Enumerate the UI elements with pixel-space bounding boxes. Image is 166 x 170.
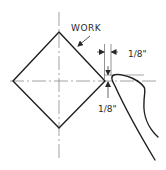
vertical-clearance-label: 1/8"	[98, 104, 117, 114]
cutting-tool	[112, 74, 158, 160]
diagram-canvas: WORK 1/8" 1/8"	[0, 0, 166, 170]
diagram-svg: WORK 1/8" 1/8"	[0, 0, 166, 170]
vertical-dimension: 1/8"	[98, 66, 144, 114]
centerlines	[10, 12, 156, 158]
horizontal-clearance-label: 1/8"	[128, 49, 147, 59]
work-label: WORK	[71, 23, 102, 33]
work-leader-arrow	[78, 36, 90, 46]
horizontal-dimension: 1/8"	[97, 44, 147, 79]
